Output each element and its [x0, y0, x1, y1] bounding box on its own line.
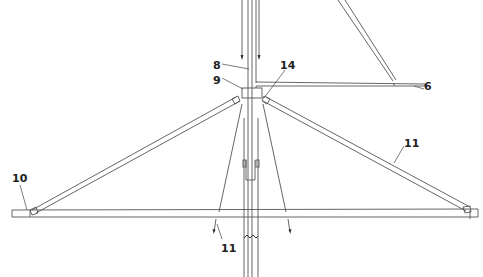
diagonal-stays [30, 96, 471, 215]
load-arrows-top [241, 0, 261, 60]
reference-numeral-14: 14 [280, 60, 295, 71]
mast [243, 0, 259, 277]
reference-numeral-6: 6 [424, 81, 432, 92]
leader-lines [20, 64, 424, 239]
boom [256, 0, 425, 86]
reference-numeral-11-right: 11 [404, 138, 419, 149]
reference-numeral-8: 8 [213, 60, 221, 71]
reference-numeral-11-bottom: 11 [221, 243, 236, 254]
yard [12, 209, 478, 219]
cone-lines [219, 104, 286, 212]
reference-numeral-9: 9 [213, 75, 221, 86]
reference-numeral-10: 10 [12, 173, 27, 184]
